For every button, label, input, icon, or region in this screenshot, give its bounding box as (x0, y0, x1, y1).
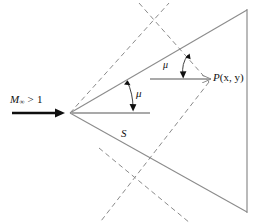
mach-angle-right-label: μ (163, 60, 168, 70)
freestream-arrow (12, 109, 65, 118)
field-point-label: P(x, y) (213, 72, 244, 83)
mach-cone-envelope (70, 9, 247, 213)
angle-arc-right-arrowhead-bottom (180, 71, 187, 78)
mach-wave-crossing-dashed-line (139, 3, 209, 82)
source-point-label: S (121, 128, 127, 139)
angle-arc-left (124, 80, 136, 111)
freestream-mach-label: M∞ > 1 (10, 94, 43, 106)
field-point-name: P (213, 71, 220, 83)
freestream-mach-relation: > 1 (25, 93, 43, 105)
freestream-arrow-head (55, 109, 65, 118)
mach-wave-upper-dashed-line (70, 3, 169, 113)
angle-arc-left-arrowhead-bottom (130, 104, 137, 112)
mach-angle-left-label: μ (136, 88, 142, 99)
mach-cone-diagram: M∞ > 1 μ μ S P(x, y) (0, 0, 259, 224)
freestream-mach-symbol: M (10, 93, 19, 105)
field-point-coords: (x, y) (220, 71, 244, 83)
diagram-canvas (0, 0, 259, 224)
mach-wave-lower-secondary-dashed-line (99, 148, 190, 223)
mach-wave-lower-dashed-line (101, 82, 209, 221)
angle-arc-right (180, 54, 191, 79)
